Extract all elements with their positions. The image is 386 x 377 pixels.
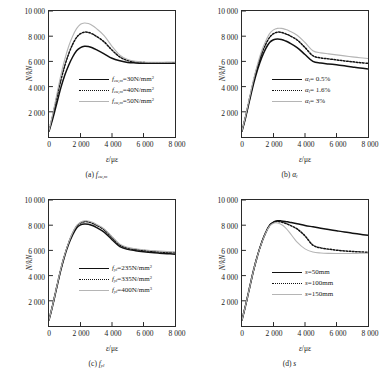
x-axis-label: ε/με: [48, 155, 176, 164]
y-tick-label: 2 000: [221, 109, 238, 118]
legend-item: fyl=235N/mm2: [79, 262, 152, 273]
plot-area-b: 2 0004 0006 0008 00010 00002 0004 0006 0…: [241, 10, 369, 138]
legend-item: s=150mm: [272, 288, 333, 299]
y-axis-label: N/kN: [218, 54, 227, 94]
subplot-c: 2 0004 0006 0008 00010 00002 0004 0006 0…: [0, 189, 193, 377]
legend-label: fyl=400N/mm3: [112, 286, 152, 294]
legend-item: αl= 3%: [272, 95, 330, 106]
x-tick-label: 6 000: [330, 329, 347, 338]
plot-area-a: 2 0004 0006 0008 00010 00002 0004 0006 0…: [48, 10, 176, 138]
y-tick-label: 2 000: [221, 298, 238, 307]
x-tick-label: 4 000: [298, 329, 315, 338]
y-axis-label: N/kN: [218, 243, 227, 283]
y-tick-label: 2 000: [28, 109, 45, 118]
x-tick-label: 0: [47, 140, 51, 149]
legend-item: fyl=400N/mm3: [79, 284, 152, 295]
figure-parametric-curves: 2 0004 0006 0008 00010 00002 0004 0006 0…: [0, 0, 386, 377]
legend-item: αl= 1.6%: [272, 84, 330, 95]
x-tick-label: 8 000: [169, 140, 186, 149]
x-tick-label: 8 000: [169, 329, 186, 338]
curves-d: [242, 200, 368, 326]
x-tick-label: 6 000: [330, 140, 347, 149]
legend-label: fcu,m=30N/mm2: [112, 75, 154, 83]
subplot-caption-d: (d) s: [193, 359, 386, 368]
y-tick-label: 10 000: [217, 196, 238, 205]
legend-line-icon: [79, 286, 109, 294]
legend-item: fcu,m=40N/mm2: [79, 84, 154, 95]
subplot-b: 2 0004 0006 0008 00010 00002 0004 0006 0…: [193, 0, 386, 188]
legend-line-icon: [272, 86, 302, 94]
y-axis-label: N/kN: [25, 54, 34, 94]
x-tick-label: 2 000: [266, 329, 283, 338]
y-tick-label: 10 000: [24, 7, 45, 16]
x-tick-label: 4 000: [105, 329, 122, 338]
legend-line-icon: [79, 86, 109, 94]
legend-label: fyl=335N/mm2: [112, 275, 152, 283]
x-tick-label: 0: [240, 329, 244, 338]
x-axis-label: ε/με: [241, 155, 369, 164]
legend-item: fyl=335N/mm2: [79, 273, 152, 284]
x-tick-label: 2 000: [73, 140, 90, 149]
legend-d: s=50mms=100mms=150mm: [272, 266, 333, 299]
legend-label: s=50mm: [305, 268, 330, 276]
subplot-d: 2 0004 0006 0008 00010 00002 0004 0006 0…: [193, 189, 386, 377]
legend-line-icon: [272, 268, 302, 276]
legend-a: fcu,m=30N/mm2fcu,m=40N/mm2fcu,m=50N/mm2: [79, 73, 154, 106]
x-tick-label: 0: [47, 329, 51, 338]
subplot-caption-a: (a) fcu,m: [0, 170, 193, 179]
legend-item: αl= 0.5%: [272, 73, 330, 84]
x-tick-label: 2 000: [73, 329, 90, 338]
legend-label: s=100mm: [305, 279, 333, 287]
legend-line-icon: [79, 275, 109, 283]
x-axis-label: ε/με: [241, 344, 369, 353]
x-tick-label: 0: [240, 140, 244, 149]
subplot-caption-b: (b) αl: [193, 170, 386, 179]
legend-line-icon: [79, 75, 109, 83]
y-tick-label: 8 000: [28, 32, 45, 41]
legend-item: fcu,m=30N/mm2: [79, 73, 154, 84]
legend-line-icon: [272, 279, 302, 287]
legend-label: αl= 3%: [305, 97, 325, 105]
y-tick-label: 8 000: [221, 221, 238, 230]
legend-item: s=50mm: [272, 266, 333, 277]
legend-b: αl= 0.5%αl= 1.6%αl= 3%: [272, 73, 330, 106]
legend-line-icon: [272, 75, 302, 83]
legend-line-icon: [79, 97, 109, 105]
y-tick-label: 10 000: [217, 7, 238, 16]
legend-label: s=150mm: [305, 290, 333, 298]
y-tick-label: 10 000: [24, 196, 45, 205]
legend-label: αl= 1.6%: [305, 86, 330, 94]
x-tick-label: 4 000: [298, 140, 315, 149]
plot-area-d: 2 0004 0006 0008 00010 00002 0004 0006 0…: [241, 199, 369, 327]
x-tick-label: 8 000: [362, 140, 379, 149]
y-tick-label: 8 000: [28, 221, 45, 230]
legend-line-icon: [272, 97, 302, 105]
x-tick-label: 2 000: [266, 140, 283, 149]
y-tick-label: 8 000: [221, 32, 238, 41]
y-tick-label: 2 000: [28, 298, 45, 307]
legend-label: fyl=235N/mm2: [112, 264, 152, 272]
x-tick-label: 6 000: [137, 140, 154, 149]
y-axis-label: N/kN: [25, 243, 34, 283]
legend-c: fyl=235N/mm2fyl=335N/mm2fyl=400N/mm3: [79, 262, 152, 295]
x-axis-label: ε/με: [48, 344, 176, 353]
x-tick-label: 4 000: [105, 140, 122, 149]
legend-label: αl= 0.5%: [305, 75, 330, 83]
legend-item: s=100mm: [272, 277, 333, 288]
legend-line-icon: [79, 264, 109, 272]
subplot-caption-c: (c) fyl: [0, 359, 193, 368]
legend-item: fcu,m=50N/mm2: [79, 95, 154, 106]
subplot-a: 2 0004 0006 0008 00010 00002 0004 0006 0…: [0, 0, 193, 188]
plot-area-c: 2 0004 0006 0008 00010 00002 0004 0006 0…: [48, 199, 176, 327]
legend-label: fcu,m=50N/mm2: [112, 97, 154, 105]
x-tick-label: 8 000: [362, 329, 379, 338]
legend-label: fcu,m=40N/mm2: [112, 86, 154, 94]
x-tick-label: 6 000: [137, 329, 154, 338]
legend-line-icon: [272, 290, 302, 298]
